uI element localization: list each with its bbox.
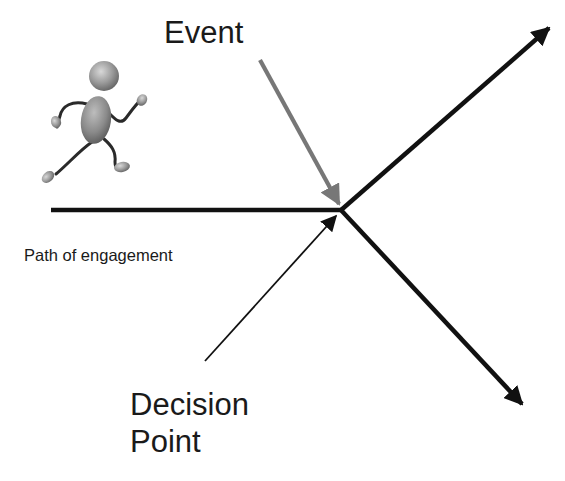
- diagram-canvas: [0, 0, 565, 481]
- event-label: Event: [164, 15, 243, 51]
- event-arrow: [260, 60, 339, 204]
- running-person-icon: [39, 61, 149, 185]
- decision-point-arrow: [205, 216, 336, 361]
- upper-branch-arrow: [340, 28, 549, 211]
- path-of-engagement-label: Path of engagement: [24, 245, 173, 265]
- decision-point-label-line2: Point: [130, 423, 249, 460]
- decision-point-label: Decision Point: [130, 386, 249, 460]
- decision-point-label-line1: Decision: [130, 386, 249, 423]
- decision-point-diagram: Event Path of engagement Decision Point: [0, 0, 565, 481]
- lower-branch-arrow: [340, 209, 522, 404]
